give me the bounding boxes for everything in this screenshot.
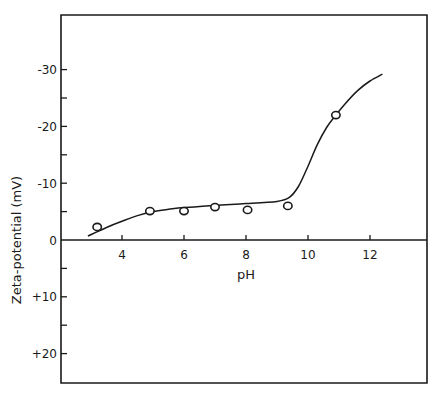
y-tick-label: +10 xyxy=(32,290,57,304)
data-point-marker xyxy=(284,202,292,209)
x-tick-label: 12 xyxy=(362,248,377,262)
x-tick-label: 4 xyxy=(118,248,126,262)
data-points xyxy=(93,111,340,230)
y-tick-label: -30 xyxy=(37,63,57,77)
curve-path xyxy=(88,74,383,236)
data-point-marker xyxy=(243,206,251,213)
data-point-marker xyxy=(146,207,154,214)
data-point-marker xyxy=(93,223,101,230)
x-tick-label: 6 xyxy=(180,248,188,262)
y-tick-label: +20 xyxy=(32,347,57,361)
frame-border xyxy=(61,15,427,383)
data-point-marker xyxy=(332,111,340,118)
x-tick-label: 8 xyxy=(242,248,250,262)
y-tick-label: 0 xyxy=(49,234,57,248)
x-tick-label: 10 xyxy=(300,248,315,262)
zeta-potential-chart: 4681012 -30-20-100+10+20 pH Zeta-potenti… xyxy=(0,0,440,394)
y-axis-label: Zeta-potential (mV) xyxy=(9,176,24,304)
y-tick-label: -20 xyxy=(37,120,57,134)
plot-frame xyxy=(61,15,427,383)
y-tick-label: -10 xyxy=(37,177,57,191)
data-point-marker xyxy=(180,207,188,214)
x-axis-label: pH xyxy=(237,267,255,282)
fitted-curve xyxy=(88,74,383,236)
x-axis-ticks: 4681012 xyxy=(118,235,377,262)
data-point-marker xyxy=(211,203,219,210)
